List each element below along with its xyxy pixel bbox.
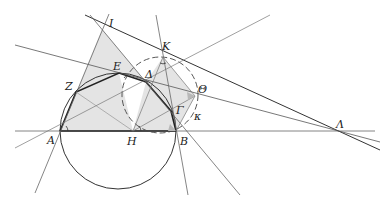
label-K: Κ [161,40,171,53]
label-B: Β [179,135,188,148]
label-kappa: κ [193,110,202,123]
label-Delta: Δ [144,68,153,81]
label-H: Η [126,135,137,148]
label-I: Ι [108,17,114,30]
label-Z: Ζ [64,80,73,93]
label-Lambda: Λ [335,118,344,131]
geometry-diagram: Α Β Η Γ Δ Ε Ζ Θ Ι Κ Λ κ [0,0,386,207]
label-E: Ε [112,60,121,73]
label-Gamma: Γ [175,104,184,117]
label-A: Α [46,134,55,147]
label-Theta: Θ [198,83,207,96]
shaded-triangle-KHB [133,57,195,131]
